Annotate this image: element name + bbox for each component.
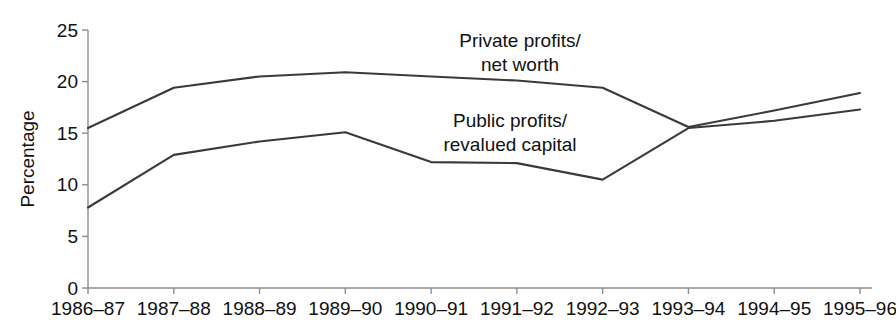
y-tick-label: 25 [57, 20, 78, 41]
annotation-line: Public profits/ [453, 110, 568, 131]
chart-container: 0510152025 Percentage 1986–871987–881988… [0, 0, 896, 330]
y-tick-label: 20 [57, 71, 78, 92]
chart-background [0, 0, 896, 330]
annotation-line: net worth [481, 54, 559, 75]
y-tick-label: 5 [67, 226, 78, 247]
x-tick-label: 1987–88 [137, 298, 211, 319]
x-tick-label: 1989–90 [308, 298, 382, 319]
y-tick-label: 15 [57, 123, 78, 144]
y-tick-label: 0 [67, 278, 78, 299]
x-tick-label: 1986–87 [51, 298, 125, 319]
x-tick-label: 1990–91 [394, 298, 468, 319]
x-tick-label: 1992–93 [566, 298, 640, 319]
line-chart: 0510152025 Percentage 1986–871987–881988… [0, 0, 896, 330]
y-axis-title: Percentage [17, 110, 38, 207]
x-tick-label: 1991–92 [480, 298, 554, 319]
x-tick-label: 1994–95 [737, 298, 811, 319]
annotation-line: Private profits/ [459, 30, 581, 51]
x-tick-label: 1995–96 [823, 298, 896, 319]
x-tick-label: 1988–89 [223, 298, 297, 319]
annotation-line: revalued capital [443, 134, 576, 155]
y-tick-label: 10 [57, 174, 78, 195]
x-tick-label: 1993–94 [651, 298, 725, 319]
